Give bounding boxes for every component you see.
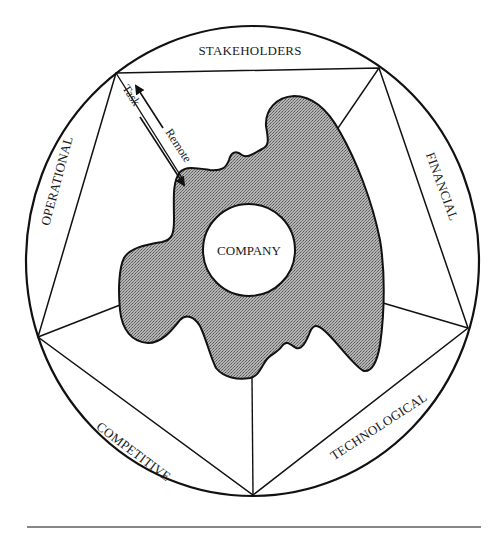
spoke-left <box>38 305 120 337</box>
operational-label: OPERATIONAL <box>38 135 76 228</box>
arrow-remote <box>136 86 163 128</box>
stakeholders-label: STAKEHOLDERS <box>198 43 301 58</box>
company-label: COMPANY <box>217 243 281 258</box>
spoke-right <box>383 303 468 328</box>
company-environment-diagram: COMPANY Remote Task STAKEHOLDERS FINANCI… <box>0 0 503 534</box>
spoke-top-right <box>336 68 379 131</box>
task-label: Task <box>119 82 143 108</box>
spoke-bottom <box>252 378 253 495</box>
